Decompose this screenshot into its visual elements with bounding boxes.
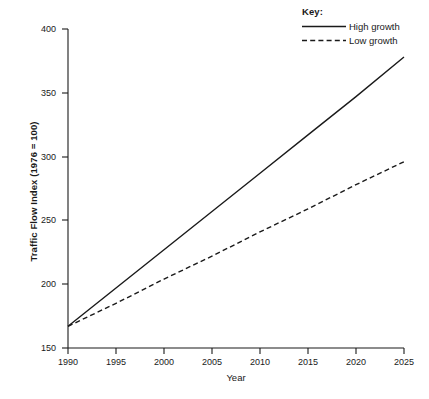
legend-swatch-dashed-line (302, 35, 346, 46)
x-tick-label-1990: 1990 (48, 357, 88, 367)
x-tick-label-2005: 2005 (192, 357, 232, 367)
series-line-high-growth (68, 57, 404, 326)
x-axis-title: Year (68, 372, 404, 383)
legend-title: Key: (302, 6, 428, 17)
legend-item-high-growth: High growth (302, 20, 428, 33)
x-tick-label-2015: 2015 (288, 357, 328, 367)
legend-label-low-growth: Low growth (346, 35, 398, 46)
legend-swatch-solid-line (302, 21, 346, 32)
y-tick-label-400: 400 (26, 24, 56, 34)
y-tick-marks (62, 29, 68, 348)
y-axis-title: Traffic Flow Index (1976 = 100) (28, 92, 39, 292)
line-chart-plot (0, 0, 429, 399)
legend-item-low-growth: Low growth (302, 34, 428, 47)
chart-figure: 400 350 300 250 200 150 1990 1995 2000 2… (0, 0, 429, 399)
x-tick-label-2010: 2010 (240, 357, 280, 367)
y-tick-label-150: 150 (26, 343, 56, 353)
x-tick-label-2000: 2000 (144, 357, 184, 367)
x-tick-label-2025: 2025 (384, 357, 424, 367)
legend-label-high-growth: High growth (346, 21, 400, 32)
x-tick-marks (68, 348, 404, 354)
series-line-low-growth (68, 162, 404, 327)
chart-legend: Key: High growth Low growth (302, 6, 428, 48)
x-tick-label-1995: 1995 (96, 357, 136, 367)
x-tick-label-2020: 2020 (336, 357, 376, 367)
